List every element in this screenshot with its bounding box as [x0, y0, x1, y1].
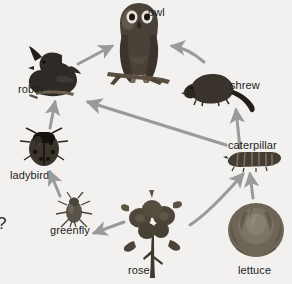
label-rose: rose	[128, 265, 150, 276]
label-owl: owl	[148, 7, 165, 18]
label-caterpillar: caterpillar	[228, 140, 277, 151]
label-greenfly: greenfly	[50, 225, 90, 236]
stray-question-mark: ?	[0, 214, 6, 234]
label-lettuce: lettuce	[238, 265, 271, 276]
label-robin: robin	[18, 84, 43, 95]
food-web-diagram: owlrobinshrewladybirdcaterpillargreenfly…	[0, 0, 292, 284]
label-ladybird: ladybird	[10, 170, 49, 181]
label-shrew: shrew	[230, 80, 260, 91]
label-layer: owlrobinshrewladybirdcaterpillargreenfly…	[0, 0, 292, 284]
